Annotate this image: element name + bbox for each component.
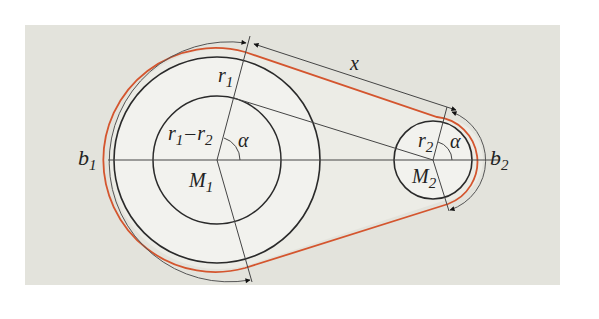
belt-drive-diagram: r1 r1–r2 α M1 r2 α M2 b1 b2 x [0,0,599,319]
label-alpha-right: α [450,130,461,152]
label-alpha-left: α [238,129,249,151]
label-x: x [349,52,359,74]
